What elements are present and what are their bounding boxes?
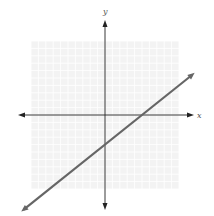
x-axis-arrow-left xyxy=(18,113,25,118)
chart: x y xyxy=(0,0,214,216)
y-axis-arrow-up xyxy=(103,20,108,27)
x-axis-arrow-right xyxy=(187,113,194,118)
y-axis-label: y xyxy=(102,7,108,16)
x-axis-label: x xyxy=(197,111,202,120)
y-axis-arrow-down xyxy=(103,203,108,210)
